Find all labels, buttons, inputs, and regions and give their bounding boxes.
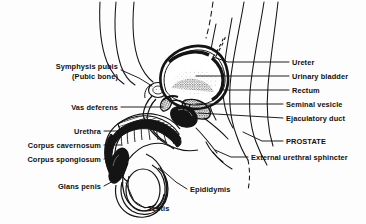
label-symphysis-pubis: Symphysis pubis(Pubic bone) [56, 62, 118, 82]
diagram-canvas: Symphysis pubis(Pubic bone)Vas deferensU… [0, 0, 366, 224]
label-prostate: PROSTATE [286, 137, 326, 146]
anatomy-illustration [0, 0, 366, 224]
label-urinary-bladder: Urinary bladder [292, 72, 348, 81]
outer-buttock-line [267, 2, 278, 146]
anal-canal-line-2 [213, 152, 232, 169]
perineum-line-2 [196, 128, 217, 153]
leader-line-ejaculatory-duct [198, 113, 283, 118]
label-ejaculatory-duct: Ejaculatory duct [286, 114, 345, 123]
label-seminal-vesicle: Seminal vesicle [286, 100, 343, 109]
label-text-glans-penis: Glans penis [58, 182, 101, 191]
label-text-vas-deferens: Vas deferens [71, 103, 118, 112]
label-rectum: Rectum [292, 86, 320, 95]
label-text-corpus-spongiosum: Corpus spongiosum [27, 155, 101, 164]
label-testis: Testis [148, 204, 169, 213]
label-corpus-spongiosum: Corpus spongiosum [27, 155, 101, 164]
penis-structure [105, 114, 181, 183]
label-text-urethra: Urethra [74, 127, 101, 136]
sacrum-contour-line [230, 2, 248, 160]
label-text-rectum: Rectum [292, 86, 320, 95]
sacral-line-top [206, 2, 213, 38]
label-epididymis: Epididymis [190, 185, 230, 194]
label-text-testis: Testis [148, 204, 169, 213]
label-corpus-cavernosum: Corpus cavernosum [28, 141, 101, 150]
label-text-urinary-bladder: Urinary bladder [292, 72, 348, 81]
leader-line-epididymis [160, 168, 187, 189]
label-text-epididymis: Epididymis [190, 185, 230, 194]
label-text-symphysis-pubis: Symphysis pubis [56, 62, 118, 72]
label-vas-deferens: Vas deferens [71, 103, 118, 112]
label-glans-penis: Glans penis [58, 182, 101, 191]
leader-line-symphysis-pubis [121, 70, 152, 86]
abdominal-wall-inner-line [115, 2, 135, 85]
label-text-prostate: PROSTATE [286, 137, 326, 146]
leader-line-testis [126, 183, 145, 208]
abdominal-wall-third-line [133, 2, 153, 82]
label-text-ureter: Ureter [292, 58, 314, 67]
label-urethra: Urethra [74, 127, 101, 136]
label-text-external-urethral-sphincter: External urethral sphincter [251, 153, 348, 162]
label-ureter: Ureter [292, 58, 314, 67]
label-text-ejaculatory-duct: Ejaculatory duct [286, 114, 345, 123]
lower-sacral-line [248, 160, 250, 190]
label-text-seminal-vesicle: Seminal vesicle [286, 100, 343, 109]
label-external-urethral-sphincter: External urethral sphincter [251, 153, 348, 162]
leader-line-prostate [243, 132, 283, 141]
perineum-line [204, 118, 228, 139]
label-subtext-symphysis-pubis: (Pubic bone) [56, 72, 118, 82]
label-text-corpus-cavernosum: Corpus cavernosum [28, 141, 101, 150]
